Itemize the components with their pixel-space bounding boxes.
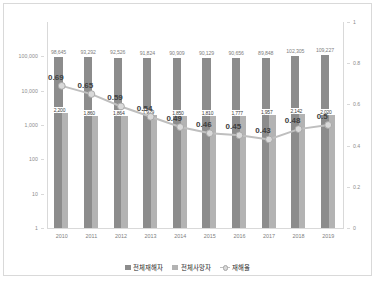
y-axis-right: 10.80.60.40.20 [347,22,377,229]
rate-label: 0.5 [317,112,328,121]
legend-label-deaths: 전체사망자 [181,263,211,272]
x-axis-tick: 2012 [115,233,127,239]
y-axis-right-tick: 1 [353,19,356,25]
x-axis: 2010201120122013201420152016201720182019 [47,230,343,244]
rate-marker[interactable] [118,103,125,110]
y-axis-right-tick: 0.2 [353,184,360,190]
y-axis-right-tick: 0 [353,225,356,231]
x-axis-tick: 2011 [86,233,98,239]
y-axis-right-tick: 0.8 [353,60,360,66]
rate-marker[interactable] [206,130,213,137]
x-axis-tick: 2018 [293,233,305,239]
rate-label: 0.48 [285,116,301,125]
legend-item-deaths[interactable]: 전체사망자 [172,263,211,272]
rate-marker[interactable] [325,122,332,129]
legend-label-injured: 전체재해자 [133,263,163,272]
chart-legend: 전체재해자 전체사망자 재해율 [4,263,371,272]
plot-axis-line-bottom [47,228,344,229]
y-axis-left-tickmark [41,194,44,195]
legend-item-injured[interactable]: 전체재해자 [125,263,164,272]
y-axis-left-tick: 10 [32,191,38,197]
rate-label: 0.46 [196,120,212,129]
y-axis-left-tickmark [41,91,44,92]
x-axis-tick: 2016 [233,233,245,239]
plot-axis-line-right [343,22,344,229]
legend-label-rate: 재해율 [232,263,250,272]
y-axis-right-tickmark [347,63,350,64]
rate-label: 0.59 [107,93,123,102]
y-axis-left-tick: 100 [29,156,38,162]
y-axis-right-tickmark [347,104,350,105]
rate-label: 0.69 [48,73,64,82]
y-axis-right-tick: 0.4 [353,143,360,149]
rate-marker[interactable] [295,126,302,133]
y-axis-left-tick: 10,000 [22,88,38,94]
rate-line-path [62,86,328,140]
x-axis-tick: 2017 [263,233,275,239]
x-axis-tick: 2014 [174,233,186,239]
x-axis-tick: 2015 [204,233,216,239]
rate-label: 0.54 [137,104,153,113]
y-axis-right-tickmark [347,228,350,229]
x-axis-tick: 2010 [56,233,68,239]
y-axis-left-tick: 100,000 [19,53,38,59]
y-axis-left-tickmark [41,125,44,126]
legend-swatch-deaths [172,265,178,270]
y-axis-left-tickmark [41,159,44,160]
rate-marker[interactable] [236,132,243,139]
legend-marker-rate-icon [220,265,230,270]
y-axis-left-tickmark [41,56,44,57]
x-axis-tick: 2019 [322,233,334,239]
chart-container: 100,00010,0001,000100101 10.80.60.40.20 … [3,3,372,276]
y-axis-left-tickmark [41,228,44,229]
legend-swatch-injured [125,265,131,270]
rate-marker[interactable] [58,82,65,89]
y-axis-right-tickmark [347,22,350,23]
rate-label: 0.65 [78,81,94,90]
rate-label: 0.43 [255,126,271,135]
rate-label: 0.49 [166,114,182,123]
rate-marker[interactable] [266,136,273,143]
x-axis-tick: 2013 [145,233,157,239]
y-axis-left: 100,00010,0001,000100101 [4,22,44,229]
y-axis-right-tickmark [347,146,350,147]
y-axis-left-tick: 1 [35,225,38,231]
y-axis-right-tick: 0.6 [353,101,360,107]
legend-item-rate[interactable]: 재해율 [220,263,251,272]
rate-marker[interactable] [88,91,95,98]
rate-marker[interactable] [177,124,184,131]
y-axis-right-tickmark [347,187,350,188]
y-axis-left-tick: 1,000 [25,122,38,128]
rate-label: 0.45 [226,122,242,131]
rate-marker[interactable] [147,113,154,120]
